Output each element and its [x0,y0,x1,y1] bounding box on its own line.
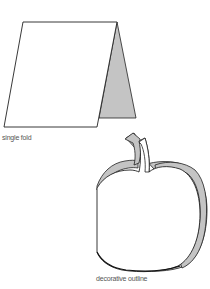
single-fold-card-illustration [0,0,210,289]
decorative-apple-card [97,133,207,272]
single-fold-caption: single fold [2,134,31,141]
decorative-outline-caption: decorative outline [96,275,147,282]
single-fold-card [4,22,136,127]
card-front-panel [4,22,117,127]
